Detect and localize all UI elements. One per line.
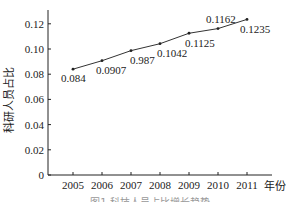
x-tick-label: 2008: [149, 179, 172, 191]
y-axis-title: 科研人员占比: [2, 67, 16, 133]
data-point: [159, 42, 162, 45]
line-chart: 00.020.040.060.080.100.12 20052006200720…: [0, 0, 293, 202]
x-axis: 2005200620072008200920102011: [48, 172, 272, 191]
y-tick-label: 0: [39, 169, 45, 181]
data-label: 0.987: [130, 54, 155, 66]
x-tick-label: 2006: [91, 179, 114, 191]
data-point: [130, 49, 133, 52]
data-label: 0.1162: [206, 13, 236, 25]
x-tick-label: 2011: [236, 179, 258, 191]
data-label: 0.0907: [96, 64, 127, 76]
data-label: 0.084: [61, 72, 86, 84]
data-series: 0.0840.09070.9870.10420.11250.11620.1235: [61, 13, 271, 85]
y-tick-label: 0.06: [25, 93, 45, 105]
y-axis: 00.020.040.060.080.100.12: [25, 10, 51, 181]
x-tick-label: 2007: [120, 179, 143, 191]
data-label: 0.1235: [240, 23, 271, 35]
data-point: [246, 18, 249, 21]
data-point: [188, 32, 191, 35]
y-tick-label: 0.08: [25, 68, 45, 80]
data-label: 0.1125: [185, 37, 215, 49]
data-point: [217, 27, 220, 30]
x-axis-title: 年份: [264, 179, 286, 193]
data-point: [72, 68, 75, 71]
data-point: [101, 59, 104, 62]
y-tick-label: 0.04: [25, 119, 45, 131]
x-tick-label: 2009: [178, 179, 201, 191]
y-tick-label: 0.12: [25, 18, 44, 30]
data-label: 0.1042: [157, 47, 187, 59]
figure-caption: 图1 科技人员占比增长趋势: [90, 196, 210, 202]
y-tick-label: 0.10: [25, 43, 45, 55]
y-tick-label: 0.02: [25, 144, 44, 156]
x-tick-label: 2010: [207, 179, 230, 191]
x-tick-label: 2005: [62, 179, 85, 191]
